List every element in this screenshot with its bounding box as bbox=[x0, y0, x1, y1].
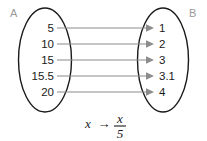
arrow-head-icon bbox=[146, 72, 154, 80]
arrow-head-icon bbox=[146, 56, 154, 64]
set-b-element: 3 bbox=[159, 54, 165, 66]
set-b-element: 2 bbox=[159, 38, 165, 50]
arrow-head-icon bbox=[146, 40, 154, 48]
mapping-rule: x → x 5 bbox=[84, 111, 126, 141]
set-a-label: A bbox=[10, 7, 18, 19]
rule-denominator: 5 bbox=[117, 126, 124, 141]
set-b-elements: 1 2 3 3.1 4 bbox=[159, 22, 175, 98]
mapping-arrow bbox=[57, 24, 154, 32]
mapping-arrows-group bbox=[57, 24, 154, 96]
set-a-element: 10 bbox=[41, 38, 54, 50]
set-a-element: 15.5 bbox=[32, 70, 54, 82]
mapping-arrow bbox=[57, 88, 154, 96]
set-b-label: B bbox=[189, 7, 196, 19]
arrow-head-icon bbox=[146, 88, 154, 96]
set-a-element: 5 bbox=[48, 22, 54, 34]
set-b-element: 4 bbox=[159, 86, 166, 98]
mapping-diagram-canvas: A B bbox=[0, 0, 207, 141]
rule-numerator: x bbox=[116, 111, 123, 126]
mapping-diagram: A B bbox=[0, 0, 207, 141]
set-a-elements: 5 10 15 15.5 20 bbox=[32, 22, 54, 98]
rule-arrow-icon: → bbox=[98, 116, 111, 131]
set-b-element: 1 bbox=[159, 22, 165, 34]
set-a-element: 15 bbox=[41, 54, 54, 66]
set-a-element: 20 bbox=[41, 86, 54, 98]
arrow-head-icon bbox=[146, 24, 154, 32]
set-b-element: 3.1 bbox=[159, 70, 175, 82]
rule-variable: x bbox=[84, 116, 91, 131]
